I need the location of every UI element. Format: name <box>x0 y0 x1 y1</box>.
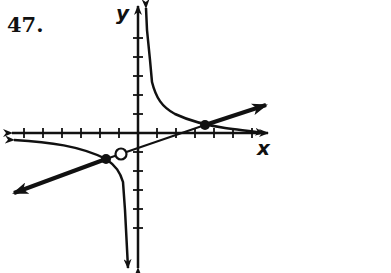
upper-branch-curve <box>146 8 264 133</box>
intersection-point-left <box>101 154 111 164</box>
intersection-point-right <box>200 120 210 130</box>
graph <box>0 0 391 273</box>
slant-line <box>14 159 106 193</box>
hole-open-circle <box>116 149 127 160</box>
slant-line-right <box>205 105 266 125</box>
y-axis <box>133 6 143 268</box>
